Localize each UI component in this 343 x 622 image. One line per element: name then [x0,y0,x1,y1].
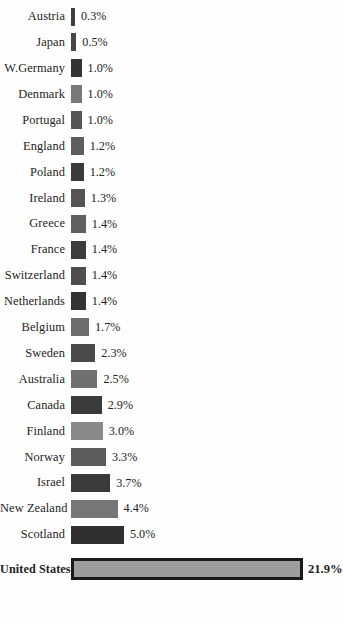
bar [71,111,82,129]
bar-row: New Zealand4.4% [0,496,343,522]
bar-category-label: United States [0,563,65,575]
bar-row: Netherlands1.4% [0,288,343,314]
bar-value-label: 3.0% [109,425,134,437]
bar [71,85,82,103]
bar-track: 1.2% [71,137,343,155]
bar-value-label: 0.3% [81,10,106,22]
bar-track: 0.5% [71,33,343,51]
bar [71,137,84,155]
bar-category-label: Japan [0,36,65,48]
bar-value-label: 3.3% [112,451,137,463]
bar-value-label: 3.7% [116,477,141,489]
bar-row: Ireland1.3% [0,185,343,211]
bar-category-label: Sweden [0,347,65,359]
bar-value-label: 2.9% [108,399,133,411]
bar-track: 3.7% [71,474,343,492]
bar-row: Belgium1.7% [0,314,343,340]
bar [71,8,75,26]
bar [71,163,84,181]
bar-row: Israel3.7% [0,470,343,496]
bar-value-label: 1.0% [88,88,113,100]
bar [71,396,102,414]
bar-row: France1.4% [0,237,343,263]
bar [71,215,86,233]
bar-value-label: 2.5% [103,373,128,385]
bar-row: Austria0.3% [0,4,343,30]
bar-category-label: Belgium [0,321,65,333]
bar [71,241,86,259]
bar-value-label: 0.5% [82,36,107,48]
bar-track: 1.7% [71,318,343,336]
bar-row: Australia2.5% [0,366,343,392]
bar-row: Switzerland1.4% [0,263,343,289]
bar-track: 1.0% [71,111,343,129]
bar [71,448,106,466]
bar-row: Finland3.0% [0,418,343,444]
bar-row: Portugal1.0% [0,107,343,133]
bar-value-label: 1.0% [88,62,113,74]
bar-value-label: 1.4% [92,295,117,307]
bar-track: 21.9% [71,558,343,580]
bar-category-label: France [0,243,65,255]
bar-value-label: 1.7% [95,321,120,333]
bar-value-label: 21.9% [308,563,343,576]
bar-value-label: 1.3% [91,192,116,204]
bar-category-label: Australia [0,373,65,385]
bar-track: 5.0% [71,526,343,544]
bar-row: Greece1.4% [0,211,343,237]
bar-row: Poland1.2% [0,159,343,185]
bar [71,292,86,310]
bar [71,500,118,518]
bar-track: 3.3% [71,448,343,466]
bar-value-label: 1.4% [92,243,117,255]
bar-value-label: 1.4% [92,269,117,281]
bar-value-label: 1.2% [90,140,115,152]
bar-row: Canada2.9% [0,392,343,418]
bar [71,189,85,207]
bar-category-label: Poland [0,166,65,178]
bar [71,318,89,336]
bar-track: 4.4% [71,500,343,518]
bar-track: 2.3% [71,344,343,362]
bar [71,33,76,51]
bar-track: 3.0% [71,422,343,440]
bar-track: 1.4% [71,292,343,310]
bar-category-label: Ireland [0,192,65,204]
bar-category-label: Canada [0,399,65,411]
bar-row: Japan0.5% [0,29,343,55]
bar-category-label: New Zealand [0,502,65,514]
bar [71,267,86,285]
bar-category-label: Austria [0,10,65,22]
bar-track: 1.3% [71,189,343,207]
bar-value-label: 5.0% [130,528,155,540]
bar-row: United States21.9% [0,556,343,582]
bar-track: 0.3% [71,8,343,26]
bar-row: Denmark1.0% [0,81,343,107]
bar-category-label: England [0,140,65,152]
bar-value-label: 2.3% [101,347,126,359]
bar [71,422,103,440]
bar-category-label: Israel [0,476,65,488]
bar [71,526,124,544]
bar-category-label: Switzerland [0,269,65,281]
bar-row: Norway3.3% [0,444,343,470]
bar-row: W.Germany1.0% [0,55,343,81]
bar [71,370,97,388]
bar-category-label: Netherlands [0,295,65,307]
bar-value-label: 1.2% [90,166,115,178]
bar-category-label: Norway [0,451,65,463]
bar [71,344,95,362]
bar-category-label: Greece [0,217,65,229]
bar-category-label: Denmark [0,88,65,100]
bar-category-label: W.Germany [0,62,65,74]
bar [71,59,82,77]
bar-track: 2.9% [71,396,343,414]
bar-track: 1.2% [71,163,343,181]
bar-track: 1.4% [71,241,343,259]
bar-value-label: 1.4% [92,218,117,230]
bar-category-label: Finland [0,425,65,437]
bar-value-label: 4.4% [124,502,149,514]
bar-row: Scotland5.0% [0,522,343,548]
bar-track: 2.5% [71,370,343,388]
bar-row: England1.2% [0,133,343,159]
